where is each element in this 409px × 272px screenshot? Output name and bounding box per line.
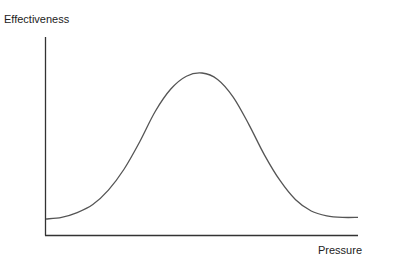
series-layer bbox=[46, 73, 358, 219]
series-line-0 bbox=[46, 73, 358, 219]
x-axis-label: Pressure bbox=[318, 244, 362, 256]
chart: Effectiveness Pressure bbox=[0, 0, 409, 272]
y-axis-label: Effectiveness bbox=[4, 13, 70, 25]
